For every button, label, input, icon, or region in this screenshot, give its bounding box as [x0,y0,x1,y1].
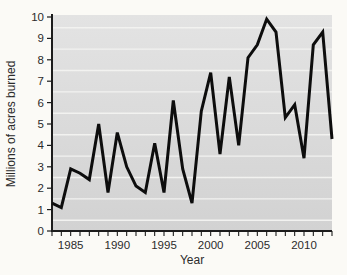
y-tick-label: 2 [38,182,44,194]
y-tick-label: 1 [38,204,44,216]
plot-area: 012345678910198519901995200020052010 [31,11,332,251]
y-axis-title: Millions of acres burned [4,61,18,188]
y-tick-label: 0 [38,225,44,237]
x-tick-label: 1990 [105,239,131,251]
y-tick-label: 3 [38,161,44,173]
x-tick-label: 2010 [291,239,317,251]
y-tick-label: 8 [38,54,44,66]
wildfire-acres-burned-figure: 012345678910198519901995200020052010 Mil… [0,0,347,275]
x-tick-label: 2000 [198,239,224,251]
y-tick-label: 4 [38,139,45,151]
y-tick-label: 9 [38,32,44,44]
y-tick-label: 6 [38,97,44,109]
y-tick-label: 7 [38,75,44,87]
y-tick-label: 10 [31,11,44,23]
x-tick-label: 1985 [58,239,84,251]
wildfire-line-chart-svg: 012345678910198519901995200020052010 Mil… [0,0,347,275]
x-tick-label: 1995 [151,239,177,251]
y-tick-label: 5 [38,118,44,130]
x-axis-title: Year [180,253,204,267]
x-tick-label: 2005 [245,239,271,251]
